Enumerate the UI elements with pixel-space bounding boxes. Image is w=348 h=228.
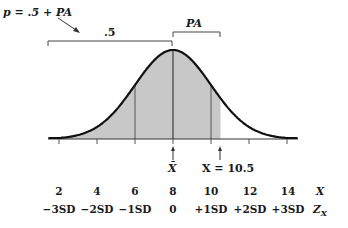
- z-value: 0: [153, 203, 193, 215]
- z-value: +1SD: [191, 203, 231, 215]
- pa-label: PA: [186, 17, 202, 30]
- x-value: 4: [77, 185, 117, 197]
- half-label: .5: [104, 26, 115, 39]
- x-value: 12: [230, 185, 270, 197]
- z-value: −2SD: [77, 203, 117, 215]
- x-value: 6: [115, 185, 155, 197]
- x-value: 8: [153, 185, 193, 197]
- z-value: +2SD: [230, 203, 270, 215]
- pa-bracket: [173, 32, 220, 37]
- x-value-label: X = 10.5: [202, 162, 254, 175]
- formula-label: p = .5 + PA: [3, 6, 72, 19]
- mean-arrowhead-icon: [171, 146, 175, 151]
- x-value: 2: [39, 185, 79, 197]
- x-row-label: X: [300, 185, 340, 197]
- axis-ticks: [59, 139, 287, 144]
- half-bracket: [48, 41, 172, 46]
- formula-arrowhead-icon: [73, 27, 80, 33]
- x-value: 10: [191, 185, 231, 197]
- z-value: −3SD: [39, 203, 79, 215]
- x-value-arrowhead-icon: [218, 146, 222, 151]
- z-row-label: ZX: [300, 203, 340, 218]
- mean-label: X̄: [168, 162, 177, 175]
- z-value: −1SD: [115, 203, 155, 215]
